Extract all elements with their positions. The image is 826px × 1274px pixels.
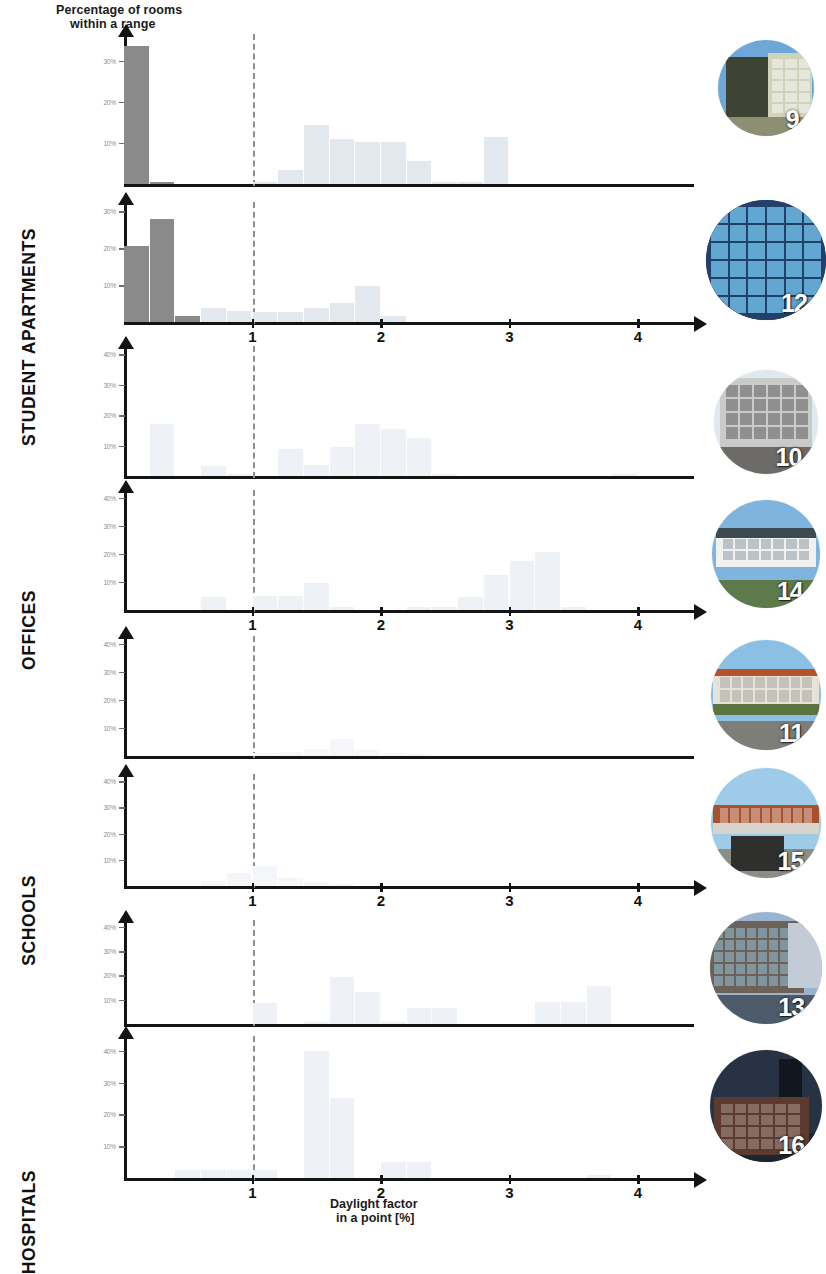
x-axis-title: Daylight factor in a point [%]: [330, 1197, 570, 1225]
x-axis-tick-label: 2: [377, 892, 385, 909]
histogram-bar: [150, 182, 175, 184]
building-photo-14: 14: [712, 500, 820, 608]
y-axis-tick-label: 30%: [90, 804, 116, 811]
histogram-bar: [227, 311, 252, 322]
histogram-bar: [330, 303, 355, 322]
building-photo-15: 15: [711, 768, 821, 878]
reference-line-df-1: [253, 490, 255, 612]
x-axis-tick-label: 1: [248, 1184, 256, 1201]
y-axis-tick-label: 30%: [90, 57, 116, 64]
y-axis-tick: [119, 211, 125, 213]
histogram-bar: [381, 316, 406, 322]
y-axis-tick: [119, 248, 125, 250]
x-axis-tick: [252, 1175, 255, 1184]
y-axis-arrow-icon: [118, 1026, 134, 1039]
photo-number-label: 12: [781, 289, 807, 318]
x-axis-tick: [637, 883, 640, 892]
x-axis-tick-label: 4: [634, 892, 642, 909]
x-axis-tick-label: 1: [248, 328, 256, 345]
y-axis-title-line2: within a range: [56, 18, 276, 32]
histogram-bar: [381, 429, 406, 476]
category-label-student-apartments: STUDENT APARTMENTS: [0, 28, 24, 228]
y-axis-tick: [119, 446, 125, 448]
histogram-bar: [587, 1175, 612, 1178]
y-axis-tick: [119, 498, 125, 500]
histogram-bar: [278, 170, 303, 184]
photo-image: [710, 1050, 822, 1162]
photo-image: [706, 200, 826, 320]
y-axis-tick: [119, 700, 125, 702]
histogram-bar: [330, 447, 355, 476]
x-axis-arrow-icon: [694, 880, 707, 896]
y-axis-tick: [119, 285, 125, 287]
histogram-bar: [407, 438, 432, 476]
y-axis-tick-label: 30%: [90, 948, 116, 955]
y-axis-tick: [119, 354, 125, 356]
y-axis-arrow-icon: [118, 764, 134, 777]
y-axis-tick: [119, 526, 125, 528]
x-axis-tick: [252, 319, 255, 328]
histogram-bar: [304, 882, 329, 886]
histogram-bar: [253, 1003, 278, 1024]
histogram-bar: [278, 596, 303, 610]
photo-number-label: 15: [778, 847, 804, 876]
y-axis-line: [124, 776, 127, 886]
reference-line-df-1: [253, 1036, 255, 1180]
y-axis-tick-label: 20%: [90, 412, 116, 419]
x-axis-arrow-icon: [694, 1172, 707, 1188]
histogram-bar: [330, 1098, 355, 1178]
y-axis-arrow-icon: [118, 626, 134, 639]
histogram-bar: [227, 1170, 252, 1178]
histogram-bar: [432, 474, 457, 476]
x-axis-title-line1: Daylight factor: [330, 1197, 418, 1211]
y-axis-line: [124, 36, 127, 184]
x-axis-tick: [252, 607, 255, 616]
x-axis-tick-label: 4: [634, 328, 642, 345]
histogram-bar: [612, 474, 637, 476]
category-label-schools: SCHOOLS: [0, 750, 24, 875]
y-axis-tick-label: 40%: [90, 923, 116, 930]
y-axis-tick: [119, 1051, 125, 1053]
category-label-offices-text: OFFICES: [19, 590, 40, 670]
reference-line-df-1: [253, 920, 255, 1026]
photo-image: [718, 40, 814, 136]
x-axis-tick: [509, 607, 512, 616]
y-axis-tick: [119, 1146, 125, 1148]
x-axis-tick: [637, 319, 640, 328]
x-axis-tick: [637, 607, 640, 616]
y-axis-tick-label: 40%: [90, 351, 116, 358]
histogram-bar: [253, 312, 278, 322]
histogram-bar: [278, 312, 303, 322]
x-axis-line: [124, 1178, 694, 1181]
histogram-bar: [355, 142, 380, 184]
histogram-bar: [535, 552, 560, 610]
x-axis-tick-label: 4: [634, 616, 642, 633]
y-axis-tick-label: 40%: [90, 640, 116, 647]
histogram-bar: [150, 424, 175, 476]
x-axis-tick: [380, 607, 383, 616]
histogram-bar: [330, 139, 355, 184]
histogram-bar: [355, 992, 380, 1024]
histogram-bar: [278, 752, 303, 756]
y-axis-tick: [119, 102, 125, 104]
x-axis-arrow-icon: [694, 604, 707, 620]
y-axis-tick-label: 20%: [90, 1111, 116, 1118]
building-photo-11: 11: [711, 640, 821, 750]
histogram-bar: [253, 1170, 278, 1178]
histogram-bar: [253, 182, 278, 184]
y-axis-tick: [119, 644, 125, 646]
photo-image: [710, 912, 822, 1024]
reference-line-df-1: [253, 636, 255, 758]
y-axis-tick-label: 10%: [90, 442, 116, 449]
y-axis-tick-label: 20%: [90, 550, 116, 557]
histogram-bar: [304, 583, 329, 610]
histogram-bar: [150, 219, 175, 322]
histogram-bar: [381, 1022, 406, 1024]
x-axis-tick-label: 4: [634, 1184, 642, 1201]
category-label-offices: OFFICES: [0, 470, 24, 590]
histogram-bar: [432, 607, 457, 610]
